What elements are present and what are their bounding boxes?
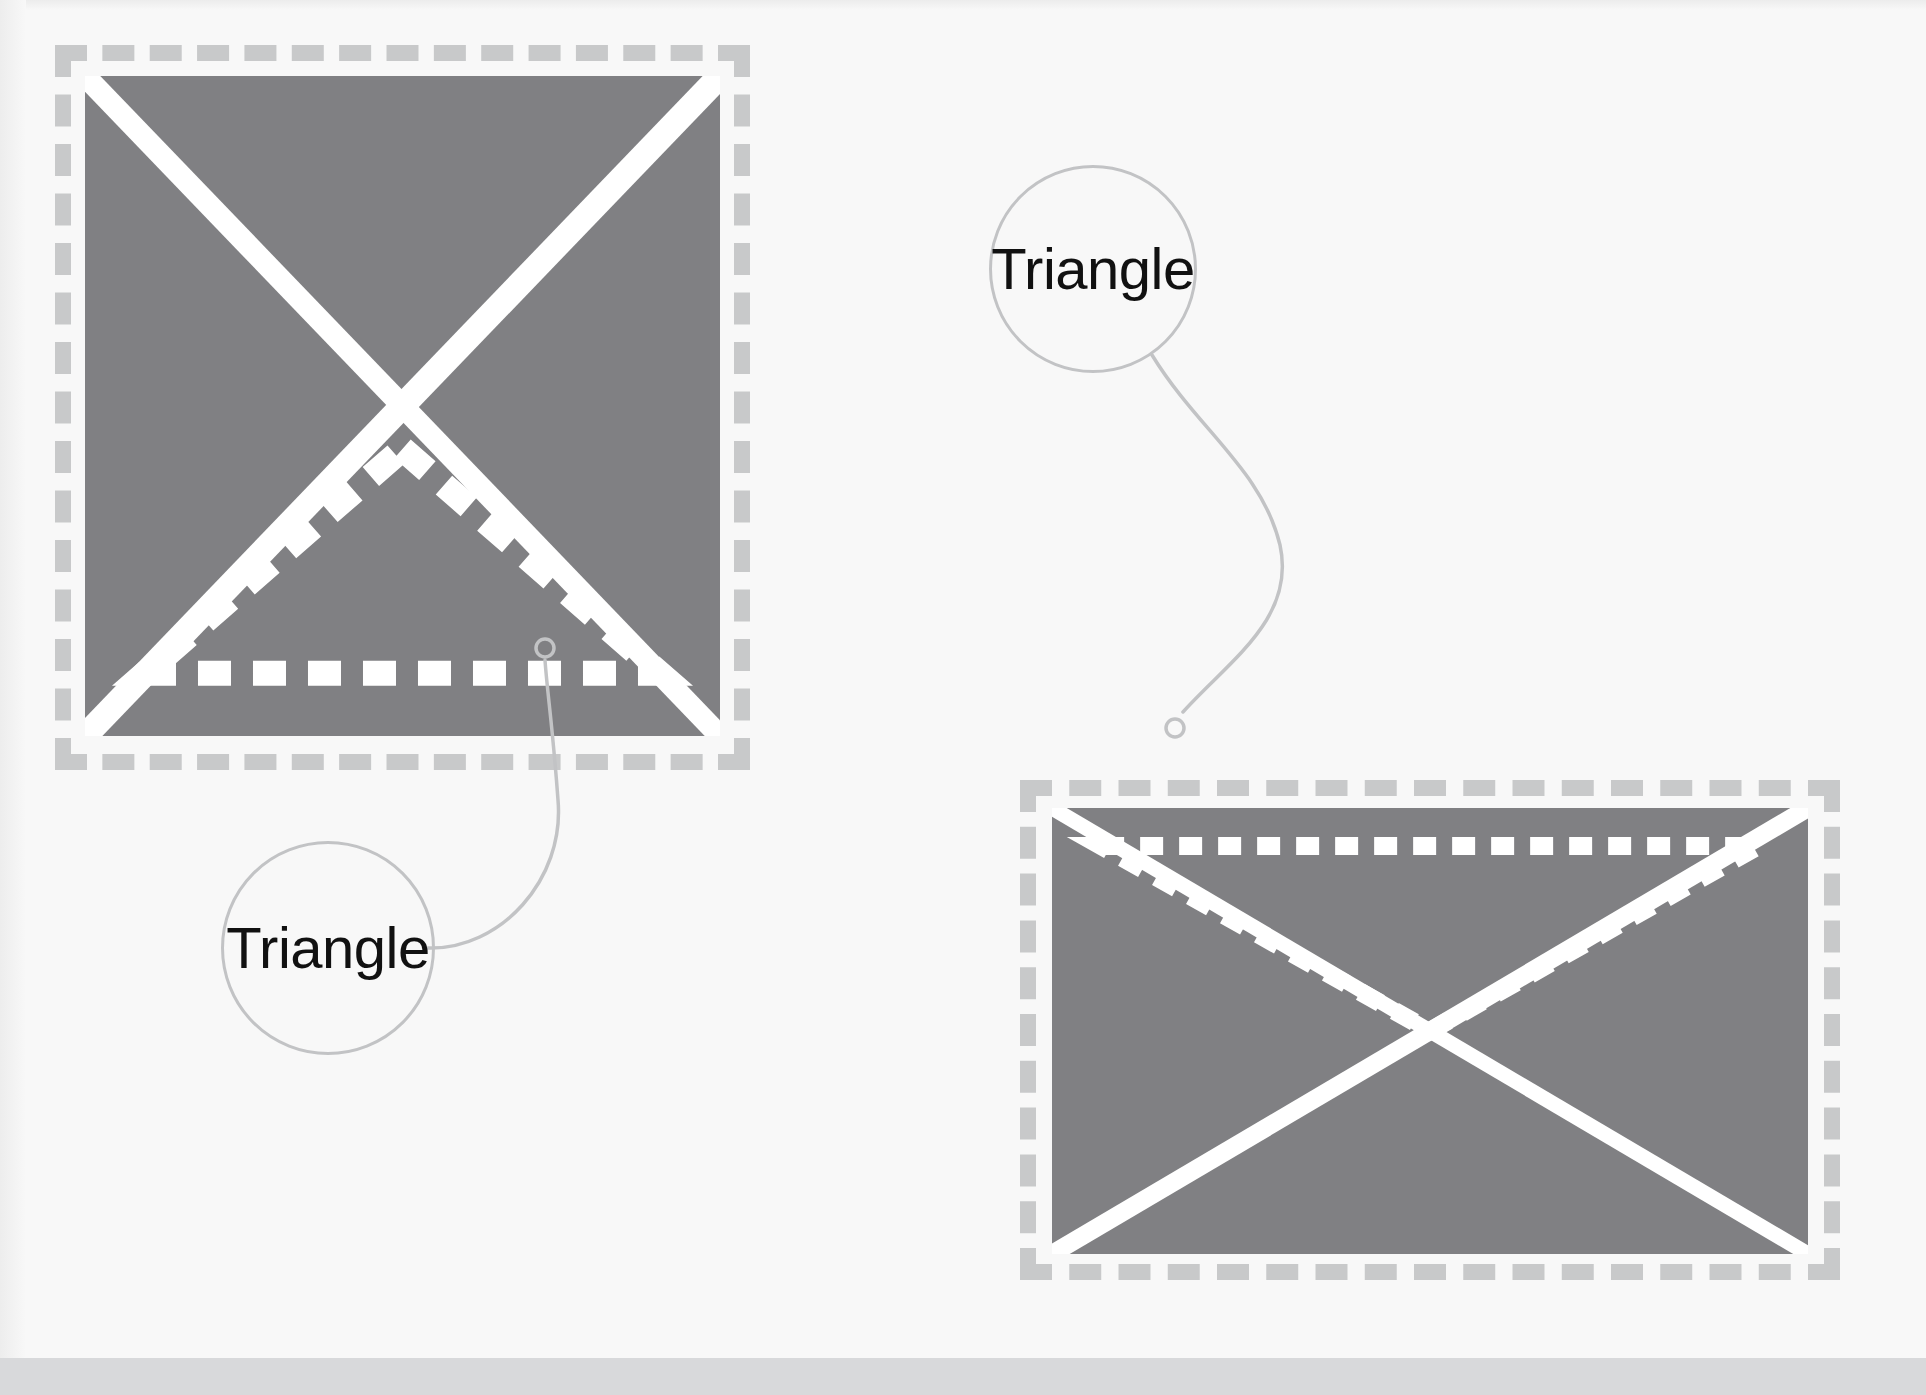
panel-fill-area [85,76,720,736]
triangle-callout-right[interactable]: Triangle [989,165,1191,367]
left-panel-markings [85,76,720,736]
annotation-canvas: Triangle Triangle [0,0,1926,1395]
bottom-edge-strip [0,1358,1926,1395]
panel-fill-area [1052,808,1808,1254]
paper-edge-top [0,0,1926,10]
triangle-callout-left[interactable]: Triangle [221,841,429,1049]
callout-label: Triangle [226,919,429,977]
paper-edge-left [0,0,26,1395]
square-marking-panel[interactable] [55,45,750,770]
rectangle-marking-panel[interactable] [1020,780,1840,1280]
callout-circle[interactable]: Triangle [221,841,435,1055]
anchor-point-dot[interactable] [1166,719,1184,737]
leader-line [1152,355,1282,712]
right-panel-markings [1052,808,1808,1254]
callout-circle[interactable]: Triangle [989,165,1197,373]
callout-label: Triangle [991,240,1194,298]
